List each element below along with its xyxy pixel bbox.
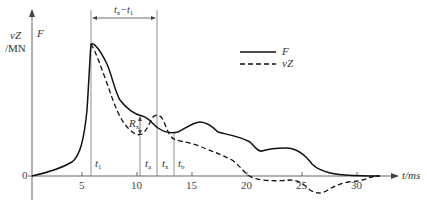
- tb-sub: b: [181, 163, 185, 171]
- t1-sub: 1: [98, 163, 102, 171]
- origin-label: 0: [22, 170, 28, 181]
- x-tick-5: 5: [79, 180, 85, 191]
- tx-sub: x: [165, 163, 169, 171]
- x-axis-title-text: t/ms: [402, 169, 420, 181]
- legend-vz-label: vZ: [282, 58, 293, 69]
- y-axis-label-vz: vZ: [10, 30, 21, 41]
- tb-label: tb: [178, 158, 185, 171]
- x-tick-15: 15: [186, 180, 197, 191]
- ta-sub: a: [148, 163, 151, 171]
- x-ticks: [82, 172, 357, 176]
- legend-f-label: F: [282, 46, 289, 57]
- rx-label: Rx: [129, 118, 139, 131]
- y-axis-label-f: F: [37, 28, 44, 39]
- t1-label: t1: [95, 158, 102, 171]
- y-axis-unit: /MN: [5, 43, 26, 54]
- x-tick-10: 10: [131, 180, 142, 191]
- x-axis-title: t/ms: [402, 170, 420, 181]
- ta-label: ta: [145, 158, 151, 171]
- chart-canvas: [0, 0, 427, 208]
- rx-r: R: [129, 117, 136, 129]
- rx-sub: x: [136, 123, 140, 131]
- dim-sep: −t: [120, 4, 130, 15]
- tx-label: tx: [162, 158, 169, 171]
- x-tick-30: 30: [351, 180, 362, 191]
- dimension-label: tx−t1: [114, 5, 133, 17]
- series-f-line: [32, 44, 380, 176]
- x-tick-20: 20: [241, 180, 252, 191]
- dim-sub-1: 1: [130, 9, 134, 17]
- x-tick-25: 25: [296, 180, 307, 191]
